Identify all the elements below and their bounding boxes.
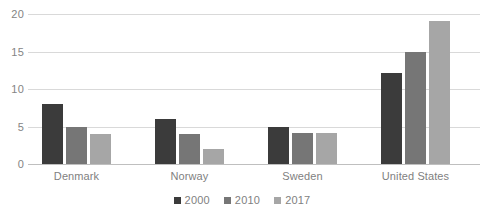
legend-label-2010: 2010 (235, 194, 260, 206)
legend-swatch-icon-2010 (224, 197, 231, 204)
x-tick-label-denmark: Denmark (54, 170, 99, 182)
bar-sweden-2010[interactable] (292, 133, 313, 164)
x-tick-label-norway: Norway (171, 170, 209, 182)
bar-denmark-2000[interactable] (42, 104, 63, 164)
legend-label-2017: 2017 (285, 194, 310, 206)
bar-sweden-2017[interactable] (316, 133, 337, 164)
x-tick-label-united-states: United States (382, 170, 449, 182)
chart-legend: 200020102017 (0, 194, 484, 206)
legend-item-2000[interactable]: 2000 (174, 194, 210, 206)
y-tick-label-15: 15 (11, 46, 24, 58)
bars-layer (28, 8, 480, 168)
x-tick-label-sweden: Sweden (282, 170, 322, 182)
legend-item-2017[interactable]: 2017 (274, 194, 310, 206)
legend-item-2010[interactable]: 2010 (224, 194, 260, 206)
bar-norway-2017[interactable] (203, 149, 224, 164)
bar-norway-2010[interactable] (179, 134, 200, 164)
chart-title-remnant (0, 0, 484, 5)
bar-united-states-2000[interactable] (381, 73, 402, 164)
bar-chart: 05101520 DenmarkNorwaySwedenUnited State… (0, 0, 484, 213)
bar-denmark-2017[interactable] (90, 134, 111, 164)
y-tick-label-20: 20 (11, 8, 24, 20)
y-tick-label-0: 0 (18, 158, 24, 170)
legend-swatch-icon-2017 (274, 197, 281, 204)
x-axis: DenmarkNorwaySwedenUnited States (28, 170, 480, 188)
bar-norway-2000[interactable] (155, 119, 176, 164)
y-tick-label-10: 10 (11, 83, 24, 95)
plot-area (28, 8, 480, 168)
legend-swatch-icon-2000 (174, 197, 181, 204)
bar-united-states-2017[interactable] (429, 21, 450, 164)
legend-label-2000: 2000 (185, 194, 210, 206)
bar-sweden-2000[interactable] (268, 127, 289, 165)
y-tick-label-5: 5 (18, 121, 24, 133)
y-axis: 05101520 (0, 8, 24, 168)
bar-united-states-2010[interactable] (405, 52, 426, 165)
bar-denmark-2010[interactable] (66, 127, 87, 165)
